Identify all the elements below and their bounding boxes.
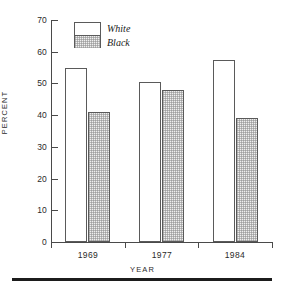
- bar-white-1969: [65, 68, 87, 242]
- x-axis-title: YEAR: [0, 265, 285, 274]
- legend-swatch: [74, 22, 101, 48]
- legend-label-white: White: [107, 24, 130, 34]
- y-axis-title: PERCENT: [0, 83, 9, 143]
- y-axis-tick-label: 70: [7, 16, 47, 25]
- y-axis-tick-label: 60: [7, 48, 47, 57]
- y-axis-tick-label: 0: [7, 238, 47, 247]
- x-axis-tick-label: 1984: [215, 251, 255, 260]
- x-axis-tick: [272, 242, 273, 248]
- bar-black-1977: [162, 90, 184, 242]
- bar-black-1969: [88, 112, 110, 242]
- x-axis-tick: [125, 242, 126, 248]
- y-axis-tick-label: 30: [7, 143, 47, 152]
- bar-chart-figure: 010203040506070 196919771984 PERCENT YEA…: [0, 0, 285, 288]
- x-axis-tick-label: 1977: [142, 251, 182, 260]
- x-axis-tick: [51, 242, 52, 248]
- bar-black-1984: [236, 118, 258, 242]
- y-axis-tick-label: 10: [7, 206, 47, 215]
- y-axis-tick-label: 20: [7, 175, 47, 184]
- bottom-rule: [12, 278, 272, 281]
- plot-area: [51, 20, 272, 242]
- x-axis-line: [51, 242, 272, 243]
- legend-label-black: Black: [107, 38, 130, 48]
- y-axis-tick-label: 50: [7, 79, 47, 88]
- bar-white-1984: [213, 60, 235, 242]
- bar-white-1977: [139, 82, 161, 242]
- legend-swatch-black-half: [75, 35, 100, 48]
- x-axis-tick-label: 1969: [68, 251, 108, 260]
- x-axis-tick: [198, 242, 199, 248]
- y-axis-tick-label: 40: [7, 111, 47, 120]
- y-axis-tick: [51, 242, 58, 243]
